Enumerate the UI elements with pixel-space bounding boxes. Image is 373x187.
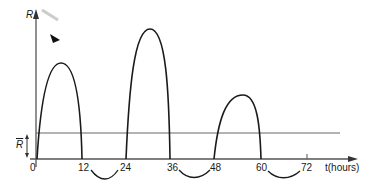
tick-label-48: 48 <box>210 163 221 173</box>
indicator-down-arrow-icon <box>25 153 29 158</box>
mean-label: R <box>16 140 23 150</box>
off-arc-1 <box>91 170 118 179</box>
indicator-up-arrow-icon <box>25 134 29 139</box>
pulse-diagram: R R t(hours) 0 12 24 36 48 60 72 <box>0 0 373 187</box>
smudge-mark <box>42 10 58 20</box>
x-axis-label: t(hours) <box>325 163 359 173</box>
off-arc-3 <box>268 171 300 178</box>
pointer-mark-icon <box>50 34 60 43</box>
diagram-canvas <box>0 0 373 187</box>
off-arc-2 <box>179 170 210 178</box>
tick-label-12: 12 <box>78 163 89 173</box>
tick-label-0: 0 <box>30 163 36 173</box>
pulse-3 <box>214 95 261 159</box>
pulse-1 <box>37 63 82 159</box>
y-axis-arrow-icon <box>33 9 39 19</box>
tick-label-60: 60 <box>256 163 267 173</box>
tick-label-72: 72 <box>301 163 312 173</box>
tick-label-24: 24 <box>120 163 131 173</box>
tick-label-36: 36 <box>167 163 178 173</box>
pulse-2 <box>126 29 170 159</box>
y-axis-label: R <box>26 10 33 20</box>
